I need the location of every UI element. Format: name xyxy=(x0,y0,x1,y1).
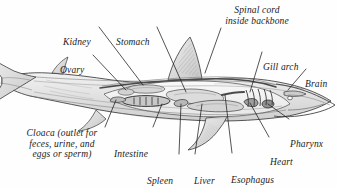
label-pharynx: Pharynx xyxy=(290,118,323,171)
label-intestine-line-1: Intestine xyxy=(114,149,148,160)
label-cloaca-line-2: feces, urine, and xyxy=(18,139,106,150)
label-spinal-cord: Spinal cord inside backbone xyxy=(217,5,297,26)
label-stomach: Stomach xyxy=(116,16,150,69)
eye xyxy=(288,96,293,100)
label-intestine: Intestine xyxy=(114,128,148,181)
label-spinal-cord-line-2: inside backbone xyxy=(217,16,297,27)
shark-anatomy-figure: Kidney Stomach Spinal cord inside backbo… xyxy=(0,0,337,187)
label-stomach-line-1: Stomach xyxy=(116,37,150,48)
label-liver: Liver xyxy=(194,155,215,187)
label-spleen: Spleen xyxy=(147,155,173,187)
label-liver-line-1: Liver xyxy=(194,176,215,187)
label-cloaca: Cloaca (outlet for feces, urine, and egg… xyxy=(18,128,106,160)
label-brain-line-1: Brain xyxy=(305,79,327,90)
label-esophagus: Esophagus xyxy=(231,154,274,187)
label-esophagus-line-1: Esophagus xyxy=(231,175,274,186)
label-spleen-line-1: Spleen xyxy=(147,176,173,187)
label-brain: Brain xyxy=(305,58,327,111)
cloaca-organ xyxy=(110,97,126,102)
label-gill-arch-line-1: Gill arch xyxy=(263,62,299,73)
label-gill-arch: Gill arch xyxy=(263,41,299,94)
label-pharynx-line-1: Pharynx xyxy=(290,139,323,150)
label-spinal-cord-line-1: Spinal cord xyxy=(217,5,297,16)
label-ovary: Ovary xyxy=(60,44,85,97)
label-cloaca-line-3: eggs or sperm) xyxy=(18,149,106,160)
leader-spinal-cord xyxy=(205,28,221,73)
label-ovary-line-1: Ovary xyxy=(60,65,85,76)
label-cloaca-line-1: Cloaca (outlet for xyxy=(18,128,106,139)
